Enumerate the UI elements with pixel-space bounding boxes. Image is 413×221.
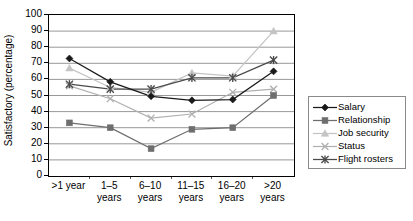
y-axis-tick-label: 70 [16, 57, 42, 67]
y-axis-tick-label: 100 [16, 9, 42, 19]
legend-label: Flight rosters [338, 152, 393, 165]
legend-label: Salary [338, 100, 365, 113]
legend-marker-triangle-icon [312, 126, 338, 139]
legend-label: Relationship [338, 113, 390, 126]
x-axis-tick-label-line1: 11–15 [177, 180, 204, 191]
y-axis-tick-label: 90 [16, 25, 42, 35]
legend-item-salary[interactable]: Salary [312, 100, 403, 113]
data-point-salary-3 [188, 97, 195, 104]
legend-item-flight-rosters[interactable]: Flight rosters [312, 152, 403, 165]
legend-marker-square-icon [312, 113, 338, 126]
chart-legend: SalaryRelationshipJob securityStatusFlig… [308, 96, 406, 169]
legend-item-relationship[interactable]: Relationship [312, 113, 403, 126]
x-axis-tick-label-line1: >1 year [52, 180, 86, 191]
legend-marker-x-icon [312, 139, 338, 152]
plot-svg [49, 15, 294, 176]
legend-item-job-security[interactable]: Job security [312, 126, 403, 139]
y-axis-tick-label: 10 [16, 154, 42, 164]
y-axis-tick-label: 20 [16, 138, 42, 148]
series-line-status [69, 86, 273, 118]
y-axis-tick-label: 80 [16, 41, 42, 51]
data-point-relationship-2 [148, 146, 154, 152]
y-axis-tick-label: 50 [16, 90, 42, 100]
series-line-relationship [69, 96, 273, 149]
legend-marker-asterisk-icon [312, 152, 338, 165]
x-axis-tick-label-line2: years [247, 192, 299, 204]
data-point-flight-rosters-5 [270, 56, 277, 64]
plot-area [48, 14, 295, 177]
x-axis-tick-label-line1: >20 [264, 180, 281, 191]
y-axis-title-text: Satisfactory (percentage) [4, 34, 15, 146]
legend-marker-glyph [322, 104, 329, 111]
chart-figure: Satisfactory (percentage) 10090807060504… [0, 0, 413, 221]
data-point-job-security-0 [66, 64, 73, 71]
y-axis-tick-label: 60 [16, 73, 42, 83]
legend-label: Status [338, 139, 365, 152]
data-point-relationship-0 [67, 120, 73, 126]
data-point-relationship-1 [107, 125, 113, 131]
data-point-salary-0 [66, 55, 73, 62]
data-point-relationship-3 [189, 126, 195, 132]
x-axis-tick-label: >20years [247, 180, 299, 204]
legend-item-status[interactable]: Status [312, 139, 403, 152]
x-axis-tick-label-line1: 1–5 [101, 180, 118, 191]
data-point-relationship-4 [230, 125, 236, 131]
x-axis-tick-label-line1: 6–10 [139, 180, 161, 191]
y-axis-tick-label: 40 [16, 106, 42, 116]
data-point-status-1 [107, 95, 114, 102]
legend-label: Job security [338, 126, 389, 139]
y-axis-tick-label: 0 [16, 170, 42, 180]
data-point-salary-5 [270, 68, 277, 75]
x-axis-tick-label-line1: 16–20 [218, 180, 246, 191]
legend-marker-glyph [322, 118, 328, 124]
y-axis-tick-label: 30 [16, 122, 42, 132]
data-point-relationship-5 [271, 93, 277, 99]
data-point-salary-4 [229, 96, 236, 103]
legend-marker-diamond-icon [312, 100, 338, 113]
